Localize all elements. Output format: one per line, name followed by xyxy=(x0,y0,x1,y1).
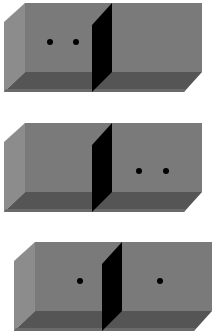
back-wall xyxy=(35,242,212,311)
particle-dot xyxy=(77,278,83,284)
floor-edge xyxy=(4,89,186,92)
particle-dot xyxy=(163,168,169,174)
particle-dot xyxy=(157,278,163,284)
back-wall xyxy=(25,3,202,72)
panel-1 xyxy=(4,3,202,92)
panel-3 xyxy=(14,242,212,331)
diagram-canvas xyxy=(0,0,217,336)
panel-2 xyxy=(4,123,202,212)
particle-dot xyxy=(136,168,142,174)
floor-edge xyxy=(4,209,186,212)
back-wall xyxy=(25,123,202,192)
floor-edge xyxy=(14,328,196,331)
particle-dot xyxy=(73,39,79,45)
particle-dot xyxy=(47,39,53,45)
